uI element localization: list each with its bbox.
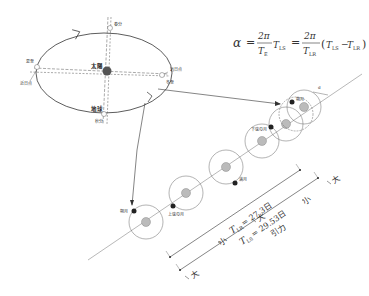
sun xyxy=(103,67,112,76)
tick xyxy=(314,172,318,178)
moon-orbit-circle-dashed xyxy=(279,97,313,131)
formula-alpha: α xyxy=(233,36,241,50)
pointer-line xyxy=(158,89,280,104)
orbit-point xyxy=(35,65,40,70)
pointer-line xyxy=(132,150,137,205)
orbit-point xyxy=(102,112,107,117)
earth-dot xyxy=(282,120,291,129)
orbit-point-label: 春分 xyxy=(114,21,122,27)
axis-line xyxy=(30,72,170,76)
moon-icon xyxy=(132,209,137,214)
orbit-point xyxy=(108,26,113,31)
moon-phases: 朔月 上弦の月 满月 下弦の月 朔月 d xyxy=(120,85,328,217)
formula-2pi: 2π xyxy=(303,31,317,41)
moon-phase-label: 朔月 xyxy=(120,208,128,214)
moon-icon xyxy=(290,100,295,105)
orbit-arrow-icon xyxy=(147,92,152,102)
formula-paren: ) xyxy=(362,38,366,51)
orbit-point xyxy=(160,73,165,78)
moon-icon xyxy=(233,181,238,186)
tick xyxy=(176,264,180,270)
earth-dot xyxy=(258,137,267,146)
force-large-label: 大 xyxy=(330,173,342,186)
delta-label: d xyxy=(318,85,321,90)
pointer-line xyxy=(137,103,145,150)
moon-phase-label: 满月 xyxy=(239,176,247,182)
moon-icon xyxy=(269,125,274,130)
arrow-head-icon xyxy=(275,101,281,106)
formula: α = 2π T E T LS = 2π T LR ( T LS − T LR … xyxy=(233,31,366,57)
orbit-point-label: 冬至 xyxy=(166,79,174,85)
orbit-point-label: 秋分 xyxy=(95,118,103,124)
dot-icon xyxy=(218,241,220,243)
formula-paren: ( xyxy=(321,38,325,51)
earth-label: 地球 xyxy=(91,105,103,113)
earth-dot xyxy=(300,103,309,112)
formula-2pi: 2π xyxy=(257,31,271,41)
formula-sub: LS xyxy=(279,45,286,51)
arrow-head-icon xyxy=(130,200,134,206)
formula-sub: LS xyxy=(332,45,339,51)
moon-orbit-circles xyxy=(129,90,321,239)
earth-dot xyxy=(222,163,231,172)
orbit-point-label: 夏至 xyxy=(26,58,34,64)
moon-orbit-diagram: 太陽 春分 夏至 近日点 远日点 冬至 地球 秋分 α = 2π T E T L… xyxy=(0,0,369,296)
formula-sub: LR xyxy=(309,51,316,57)
pointer-line xyxy=(30,71,36,81)
moon-phase-label: 下弦の月 xyxy=(251,126,267,132)
earth-dot xyxy=(142,218,151,227)
orbit-point-label: 远日点 xyxy=(170,66,182,72)
moon-phase-label: 上弦の月 xyxy=(168,211,184,217)
formula-eq: = xyxy=(291,36,300,49)
tick xyxy=(296,164,300,170)
moon-phase-label: 朔月 xyxy=(296,96,304,102)
arrow-icon xyxy=(185,276,189,279)
dot-icon xyxy=(302,199,304,201)
sun-label: 太陽 xyxy=(91,62,103,70)
arrow-icon xyxy=(327,181,331,184)
formula-eq: = xyxy=(246,36,255,49)
tick xyxy=(166,251,170,257)
formula-sub: E xyxy=(264,51,268,57)
formula-sub: LR xyxy=(353,45,360,51)
force-large-label: 大 xyxy=(189,268,201,281)
earth-dot xyxy=(182,189,191,198)
moon-icon xyxy=(171,204,176,209)
